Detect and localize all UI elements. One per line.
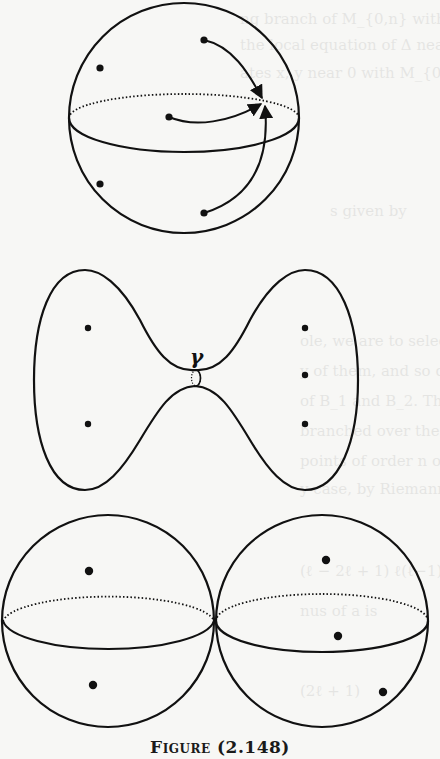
marked-point xyxy=(334,632,342,640)
equator-front xyxy=(216,621,428,652)
equator-back-dotted xyxy=(216,594,428,621)
figure-canvas: γ xyxy=(0,0,440,759)
sphere-outline xyxy=(69,3,299,233)
marked-point xyxy=(85,567,93,575)
figure-caption: Figure (2.148) xyxy=(0,737,440,757)
middle-pinched-surface: γ xyxy=(34,270,358,490)
marked-point xyxy=(302,325,308,331)
arrow-from-top-point xyxy=(204,40,262,98)
marked-point xyxy=(302,372,308,378)
equator-back-dotted xyxy=(69,94,299,118)
bottom-left-sphere xyxy=(2,515,214,727)
marked-point xyxy=(85,421,91,427)
sphere-outline xyxy=(216,515,428,727)
top-sphere xyxy=(69,3,299,233)
gamma-loop-front xyxy=(196,370,201,386)
marked-point xyxy=(96,180,103,187)
marked-point xyxy=(85,325,91,331)
arrow-from-center-point xyxy=(169,104,261,123)
marked-point xyxy=(96,64,103,71)
sphere-outline xyxy=(2,515,214,727)
bottom-right-sphere xyxy=(216,515,428,727)
surface-outline xyxy=(34,270,358,490)
marked-point xyxy=(379,688,387,696)
marked-point xyxy=(322,556,330,564)
equator-back-dotted xyxy=(3,597,214,621)
marked-point xyxy=(302,421,308,427)
equator-front xyxy=(3,621,214,649)
marked-point xyxy=(89,681,97,689)
gamma-label: γ xyxy=(190,345,204,369)
